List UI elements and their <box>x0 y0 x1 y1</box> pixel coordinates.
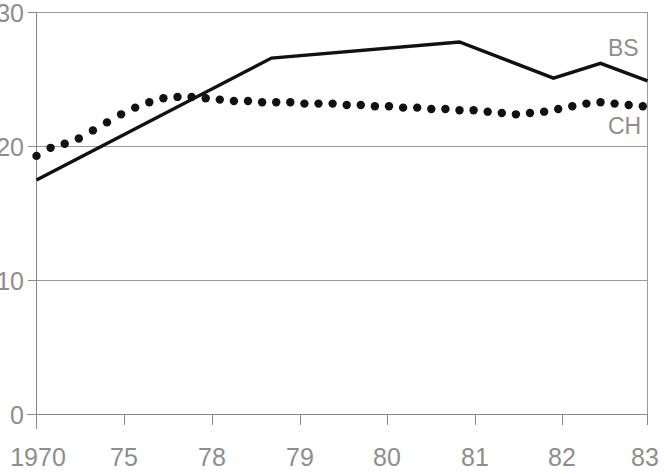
axes <box>27 12 648 429</box>
series-dot-ch <box>145 98 153 106</box>
series-dot-ch <box>526 109 534 117</box>
series-dot-ch <box>639 102 647 110</box>
x-label-83: 83 <box>631 443 659 471</box>
series-dot-ch <box>610 99 618 107</box>
y-label-0: 0 <box>10 401 24 429</box>
series-dot-ch <box>117 110 125 118</box>
series-dot-ch <box>441 105 449 113</box>
chart-container: 30 20 10 0 1970 75 78 79 80 81 82 83 BS … <box>0 0 665 474</box>
series-dot-ch <box>512 110 520 118</box>
series-dot-ch <box>286 98 294 106</box>
series-dot-ch <box>314 99 322 107</box>
y-axis-labels: 30 20 10 0 <box>0 0 24 429</box>
x-label-80: 80 <box>373 443 401 471</box>
y-label-10: 10 <box>0 267 24 295</box>
series-dot-ch <box>625 101 633 109</box>
series-dot-ch <box>60 140 68 148</box>
series-dot-ch <box>413 103 421 111</box>
x-axis-labels: 1970 75 78 79 80 81 82 83 <box>10 443 659 471</box>
series-dot-ch <box>230 97 238 105</box>
x-label-75: 75 <box>110 443 138 471</box>
series-labels: BS CH <box>608 35 641 139</box>
series-dot-ch <box>131 103 139 111</box>
series-dot-ch <box>385 102 393 110</box>
x-tick-marks <box>37 414 648 425</box>
series-layer <box>32 42 647 180</box>
series-label-ch: CH <box>608 113 641 139</box>
series-dot-ch <box>469 106 477 114</box>
series-dot-ch <box>258 98 266 106</box>
series-dot-ch <box>187 93 195 101</box>
series-dot-ch <box>371 102 379 110</box>
series-dot-ch <box>216 95 224 103</box>
series-dot-ch <box>272 98 280 106</box>
series-dot-ch <box>455 106 463 114</box>
series-dot-ch <box>568 102 576 110</box>
x-label-79: 79 <box>286 443 314 471</box>
series-dot-ch <box>399 103 407 111</box>
series-dot-ch <box>202 94 210 102</box>
series-dot-ch <box>540 107 548 115</box>
series-dot-ch <box>427 105 435 113</box>
series-dot-ch <box>357 101 365 109</box>
y-label-20: 20 <box>0 133 24 161</box>
series-dot-ch <box>159 94 167 102</box>
x-label-81: 81 <box>461 443 489 471</box>
series-dot-ch <box>75 134 83 142</box>
series-dot-ch <box>103 118 111 126</box>
series-dot-ch <box>173 93 181 101</box>
series-dot-ch <box>596 98 604 106</box>
series-dot-ch <box>484 107 492 115</box>
series-dots-ch <box>32 93 647 160</box>
y-tick-marks <box>28 13 36 415</box>
y-label-30: 30 <box>0 0 24 27</box>
x-label-82: 82 <box>548 443 576 471</box>
series-dot-ch <box>498 109 506 117</box>
series-dot-ch <box>244 97 252 105</box>
series-dot-ch <box>328 99 336 107</box>
series-dot-ch <box>46 144 54 152</box>
line-chart: 30 20 10 0 1970 75 78 79 80 81 82 83 BS … <box>0 0 665 474</box>
series-dot-ch <box>89 126 97 134</box>
series-dot-ch <box>343 101 351 109</box>
series-dot-ch <box>32 152 40 160</box>
series-label-bs: BS <box>608 35 639 61</box>
x-label-1970: 1970 <box>10 443 66 471</box>
series-dot-ch <box>582 99 590 107</box>
x-label-78: 78 <box>198 443 226 471</box>
series-dot-ch <box>300 99 308 107</box>
series-dot-ch <box>554 105 562 113</box>
